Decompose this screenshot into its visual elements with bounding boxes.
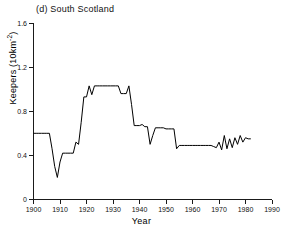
y-axis-title-exponent: -2 <box>6 35 13 41</box>
keeper-density-line <box>34 86 251 178</box>
x-tick-label-1930: 1930 <box>105 206 121 213</box>
y-tick-label-1_6: 1.6 <box>17 20 27 27</box>
x-tick-label-1950: 1950 <box>158 206 174 213</box>
x-tick-group <box>34 200 273 205</box>
axes-group <box>34 23 273 200</box>
x-axis-title: Year <box>0 216 283 226</box>
y-axis-title-close: ) <box>8 31 18 34</box>
x-tick-label-1920: 1920 <box>79 206 95 213</box>
x-tick-label-1990: 1990 <box>264 206 280 213</box>
y-tick-label-0_4: 0.4 <box>17 152 27 159</box>
y-tick-label-group: 1.6 1.2 0.8 0.4 0 <box>17 20 27 203</box>
x-tick-label-1960: 1960 <box>185 206 201 213</box>
x-tick-label-group: 1900 1910 1920 1930 1940 1950 1960 1970 … <box>26 206 280 213</box>
chart-figure: (d) South Scotland 1.6 1.2 0.8 0.4 0 <box>0 0 283 234</box>
x-tick-label-1900: 1900 <box>26 206 42 213</box>
x-tick-label-1980: 1980 <box>238 206 254 213</box>
y-tick-group <box>29 24 34 200</box>
line-chart: 1.6 1.2 0.8 0.4 0 1900 1910 1920 1930 19… <box>0 0 283 234</box>
x-tick-label-1940: 1940 <box>132 206 148 213</box>
y-tick-label-1_2: 1.2 <box>17 64 27 71</box>
y-axis-title-main: Keepers (10km <box>8 41 18 105</box>
y-tick-label-0: 0 <box>23 196 27 203</box>
y-axis-title: Keepers (10km-2) <box>6 8 18 128</box>
x-tick-label-1910: 1910 <box>52 206 68 213</box>
y-tick-label-0_8: 0.8 <box>17 108 27 115</box>
x-tick-label-1970: 1970 <box>211 206 227 213</box>
